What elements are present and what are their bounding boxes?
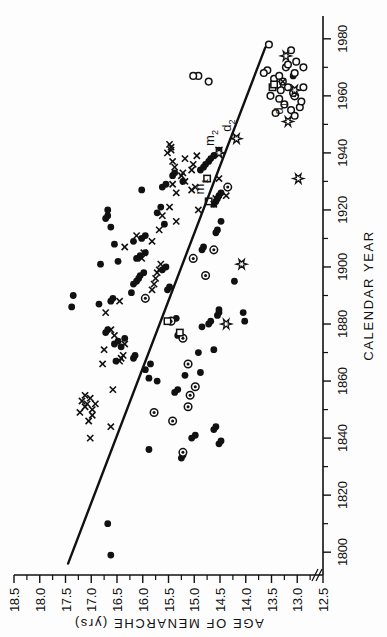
data-point-filled-circle bbox=[107, 552, 114, 559]
data-point-open-circle bbox=[276, 73, 283, 80]
data-point-open-circle bbox=[276, 95, 283, 102]
data-point-star bbox=[293, 174, 304, 183]
rotated-chart-wrapper: 1800182018401860188019001920194019601980… bbox=[0, 0, 387, 637]
point-annotation-subscript: 1 bbox=[200, 179, 210, 184]
data-point-filled-circle bbox=[240, 309, 247, 316]
data-point-filled-circle bbox=[140, 269, 147, 276]
data-point-filled-circle bbox=[142, 232, 149, 239]
x-tick-label: 1900 bbox=[335, 253, 350, 281]
data-point-open-circle bbox=[291, 113, 298, 120]
data-point-filled-circle bbox=[109, 295, 116, 302]
data-point-circled-dot-center bbox=[187, 405, 190, 408]
data-point-open-square bbox=[177, 329, 183, 335]
data-point-circled-dot-center bbox=[187, 362, 190, 365]
data-point-circled-dot-center bbox=[204, 274, 207, 277]
data-point-open-circle bbox=[190, 73, 197, 80]
data-point-filled-circle bbox=[104, 520, 111, 527]
point-annotation-subscript: 2 bbox=[210, 130, 220, 135]
data-point-filled-circle bbox=[115, 258, 122, 265]
data-point-filled-circle bbox=[231, 278, 238, 285]
data-point-filled-circle bbox=[214, 227, 221, 234]
data-point-filled-circle bbox=[207, 318, 214, 325]
data-point-filled-circle bbox=[192, 432, 199, 439]
data-point-circled-dot-center bbox=[171, 419, 174, 422]
data-point-filled-circle bbox=[200, 244, 207, 251]
point-annotation: d1 bbox=[271, 102, 289, 114]
figure-canvas: 1800182018401860188019001920194019601980… bbox=[0, 0, 387, 637]
y-axis-title: AGE OF MENARCHE (yrs) bbox=[73, 616, 263, 631]
data-point-filled-circle bbox=[157, 204, 164, 211]
data-point-filled-circle bbox=[147, 361, 154, 368]
data-point-filled-circle bbox=[154, 378, 161, 385]
data-point-filled-circle bbox=[146, 446, 153, 453]
data-point-filled-circle bbox=[212, 423, 219, 430]
data-point-open-square bbox=[164, 318, 170, 324]
y-tick-label: 18.0 bbox=[33, 588, 48, 612]
data-point-filled-circle bbox=[182, 372, 189, 379]
x-tick-label: 1960 bbox=[335, 82, 350, 110]
data-point-filled-circle bbox=[199, 323, 206, 330]
data-point-circled-dot-center bbox=[153, 411, 156, 414]
data-point-circled-dot-center bbox=[192, 257, 195, 260]
data-point-open-circle bbox=[266, 41, 273, 48]
data-point-open-circle bbox=[298, 98, 305, 105]
data-point-filled-circle bbox=[218, 438, 225, 445]
x-tick-label: 1840 bbox=[335, 424, 350, 452]
data-point-circled-dot-center bbox=[194, 385, 197, 388]
data-point-filled-circle bbox=[163, 181, 170, 188]
y-tick-label: 15.0 bbox=[187, 588, 202, 612]
y-tick-label: 17.0 bbox=[84, 588, 99, 612]
scatter-plot: 1800182018401860188019001920194019601980… bbox=[0, 0, 387, 637]
data-point-filled-circle bbox=[70, 292, 77, 299]
data-point-filled-circle bbox=[197, 369, 204, 376]
data-point-filled-circle bbox=[115, 338, 122, 345]
data-point-filled-circle bbox=[111, 241, 118, 248]
y-tick-label: 13.5 bbox=[265, 588, 280, 612]
x-tick-label: 1880 bbox=[335, 310, 350, 338]
x-tick-label: 1820 bbox=[335, 481, 350, 509]
data-point-open-circle bbox=[293, 58, 300, 65]
y-tick-label: 17.5 bbox=[59, 588, 74, 612]
data-point-filled-circle bbox=[128, 289, 135, 296]
y-tick-label: 13.0 bbox=[290, 588, 305, 612]
data-point-filled-circle bbox=[210, 346, 217, 353]
data-point-filled-circle bbox=[130, 238, 137, 245]
point-annotation: m1 bbox=[192, 179, 210, 195]
data-point-filled-circle bbox=[174, 386, 181, 393]
point-annotation: m2 bbox=[202, 130, 220, 146]
data-point-filled-circle bbox=[97, 261, 104, 268]
data-point-filled-circle bbox=[96, 301, 103, 308]
y-tick-label: 16.0 bbox=[136, 588, 151, 612]
data-point-open-circle bbox=[260, 70, 267, 77]
data-point-filled-circle bbox=[146, 375, 153, 382]
data-point-star bbox=[236, 259, 247, 268]
data-point-filled-circle bbox=[218, 218, 225, 225]
data-point-star bbox=[221, 319, 232, 328]
y-tick-label: 14.0 bbox=[239, 588, 254, 612]
x-tick-label: 1920 bbox=[335, 196, 350, 224]
x-tick-label: 1800 bbox=[335, 538, 350, 566]
data-point-circled-dot-center bbox=[226, 186, 229, 189]
y-tick-label: 18.5 bbox=[7, 588, 22, 612]
point-annotation-subscript: 2 bbox=[227, 119, 237, 124]
point-annotation-subscript: 1 bbox=[279, 102, 289, 107]
y-tick-label: 14.5 bbox=[213, 588, 228, 612]
data-point-circled-dot-center bbox=[144, 297, 147, 300]
data-point-filled-circle bbox=[216, 306, 223, 313]
y-tick-label: 16.5 bbox=[110, 588, 125, 612]
data-point-filled-circle bbox=[138, 187, 145, 194]
data-point-filled-circle bbox=[107, 224, 114, 231]
data-point-circled-dot-center bbox=[181, 451, 184, 454]
data-point-circled-dot-center bbox=[181, 337, 184, 340]
y-tick-label: 15.5 bbox=[162, 588, 177, 612]
x-tick-label: 1940 bbox=[335, 139, 350, 167]
x-axis-title: CALENDAR YEAR bbox=[361, 230, 376, 360]
x-tick-label: 1860 bbox=[335, 367, 350, 395]
data-point-filled-circle bbox=[241, 318, 248, 325]
y-tick-label: 12.5 bbox=[316, 588, 331, 612]
data-point-open-circle bbox=[300, 84, 307, 91]
data-point-filled-circle bbox=[104, 207, 111, 214]
data-point-open-circle bbox=[291, 70, 298, 77]
data-point-open-circle bbox=[285, 61, 292, 68]
data-point-open-circle bbox=[300, 64, 307, 71]
